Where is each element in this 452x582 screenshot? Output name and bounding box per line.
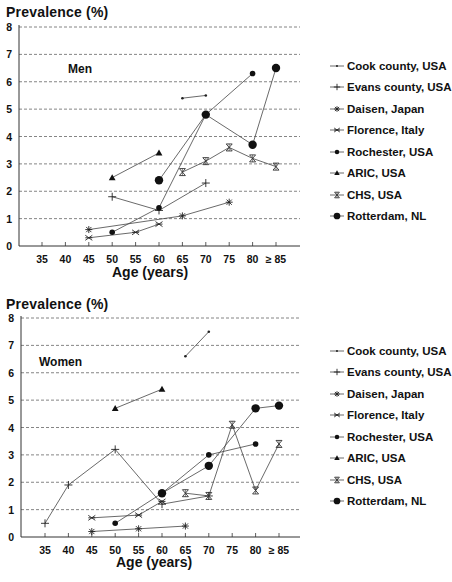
diamond-marker-icon	[330, 146, 344, 158]
legend-item: Cook county, USA	[330, 340, 452, 362]
plus-marker-icon	[330, 366, 344, 378]
panel-label: Men	[68, 62, 92, 76]
y-tick-label: 6	[6, 76, 12, 88]
y-tick-label: 6	[8, 367, 14, 379]
legend-label: Evans county, USA	[347, 81, 452, 93]
legend-label: CHS, USA	[347, 189, 402, 201]
dot-marker-icon	[330, 60, 344, 72]
y-tick-label: 7	[6, 48, 12, 60]
women-plot: 01234567835404550556065707580≥ 85Women	[0, 290, 300, 582]
legend-item: Cook county, USA	[330, 55, 452, 77]
series-chs-usa	[182, 421, 282, 499]
men-chart-panel: Prevalence (%) 0123456783540455055606570…	[0, 0, 438, 290]
series-cook-county-usa	[184, 330, 210, 357]
x-tick-label: 35	[36, 253, 48, 265]
y-tick-label: 0	[6, 240, 12, 252]
x-tick-label: 40	[63, 544, 75, 556]
women-chart-panel: Prevalence (%) 0123456783540455055606570…	[0, 290, 438, 582]
series-rochester-usa	[112, 441, 258, 526]
x-tick-label: 80	[247, 253, 259, 265]
y-tick-label: 4	[6, 131, 12, 143]
y-tick-label: 8	[8, 312, 14, 324]
series-aric-usa	[112, 386, 166, 411]
circle-marker-icon	[330, 495, 344, 507]
legend-item: Florence, Italy	[330, 120, 452, 142]
dot-marker-icon	[330, 345, 344, 357]
asterisk-marker-icon	[330, 388, 344, 400]
men-plot: 01234567835404550556065707580≥ 85Men	[0, 0, 300, 290]
legend-item: Evans county, USA	[330, 77, 452, 99]
y-tick-label: 2	[6, 185, 12, 197]
triangle-marker-icon	[330, 452, 344, 464]
legend-item: Rochester, USA	[330, 426, 452, 448]
x-tick-label: 80	[250, 544, 262, 556]
y-tick-label: 1	[6, 213, 12, 225]
hourglass-marker-icon	[330, 189, 344, 201]
legend-label: ARIC, USA	[347, 167, 406, 179]
y-tick-label: 1	[8, 504, 14, 516]
men-x-axis-title: Age (years)	[112, 264, 188, 280]
women-legend: Cook county, USAEvans county, USADaisen,…	[330, 340, 452, 512]
x-tick-label: 45	[86, 544, 98, 556]
legend-item: Rotterdam, NL	[330, 206, 452, 228]
legend-label: CHS, USA	[347, 474, 402, 486]
x-tick-label: 75	[223, 253, 235, 265]
legend-label: Rotterdam, NL	[347, 210, 426, 222]
series-evans-county-usa	[41, 445, 213, 527]
legend-label: Daisen, Japan	[347, 388, 424, 400]
y-tick-label: 5	[8, 394, 14, 406]
women-x-axis-title: Age (years)	[116, 554, 192, 570]
legend-item: Florence, Italy	[330, 405, 452, 427]
legend-label: Rochester, USA	[347, 146, 433, 158]
series-aric-usa	[109, 150, 163, 181]
y-tick-label: 4	[8, 422, 14, 434]
legend-item: CHS, USA	[330, 469, 452, 491]
legend-item: ARIC, USA	[330, 448, 452, 470]
series-chs-usa	[179, 144, 279, 176]
series-rotterdam-nl	[158, 401, 283, 497]
men-legend: Cook county, USAEvans county, USADaisen,…	[330, 55, 452, 227]
cropped-caption-text	[0, 572, 438, 582]
x-tick-label: ≥ 85	[269, 544, 290, 556]
x-marker-icon	[330, 124, 344, 136]
triangle-marker-icon	[330, 167, 344, 179]
y-tick-label: 7	[8, 339, 14, 351]
legend-item: Rochester, USA	[330, 141, 452, 163]
y-tick-label: 3	[8, 449, 14, 461]
legend-item: ARIC, USA	[330, 163, 452, 185]
legend-label: Evans county, USA	[347, 366, 452, 378]
legend-label: ARIC, USA	[347, 452, 406, 464]
asterisk-marker-icon	[330, 103, 344, 115]
legend-item: CHS, USA	[330, 184, 452, 206]
axes: 01234567835404550556065707580≥ 85	[8, 312, 300, 556]
legend-label: Florence, Italy	[347, 409, 424, 421]
x-tick-label: ≥ 85	[266, 253, 287, 265]
legend-item: Evans county, USA	[330, 362, 452, 384]
y-tick-label: 2	[8, 476, 14, 488]
legend-label: Daisen, Japan	[347, 103, 424, 115]
legend-label: Cook county, USA	[347, 60, 446, 72]
legend-item: Daisen, Japan	[330, 383, 452, 405]
y-tick-label: 5	[6, 103, 12, 115]
plus-marker-icon	[330, 81, 344, 93]
legend-label: Cook county, USA	[347, 345, 446, 357]
x-marker-icon	[330, 409, 344, 421]
legend-item: Rotterdam, NL	[330, 491, 452, 513]
legend-label: Rochester, USA	[347, 431, 433, 443]
gridlines	[21, 318, 300, 510]
legend-label: Florence, Italy	[347, 124, 424, 136]
circle-marker-icon	[330, 210, 344, 222]
y-tick-label: 3	[6, 158, 12, 170]
diamond-marker-icon	[330, 431, 344, 443]
legend-label: Rotterdam, NL	[347, 495, 426, 507]
series-cook-county-usa	[181, 94, 207, 99]
y-tick-label: 0	[8, 531, 14, 543]
gridlines	[19, 27, 300, 219]
series-rochester-usa	[109, 71, 255, 235]
x-tick-label: 75	[226, 544, 238, 556]
x-tick-label: 70	[200, 253, 212, 265]
series-daisen-japan	[85, 199, 232, 233]
x-tick-label: 45	[83, 253, 95, 265]
y-tick-label: 8	[6, 21, 12, 33]
legend-item: Daisen, Japan	[330, 98, 452, 120]
